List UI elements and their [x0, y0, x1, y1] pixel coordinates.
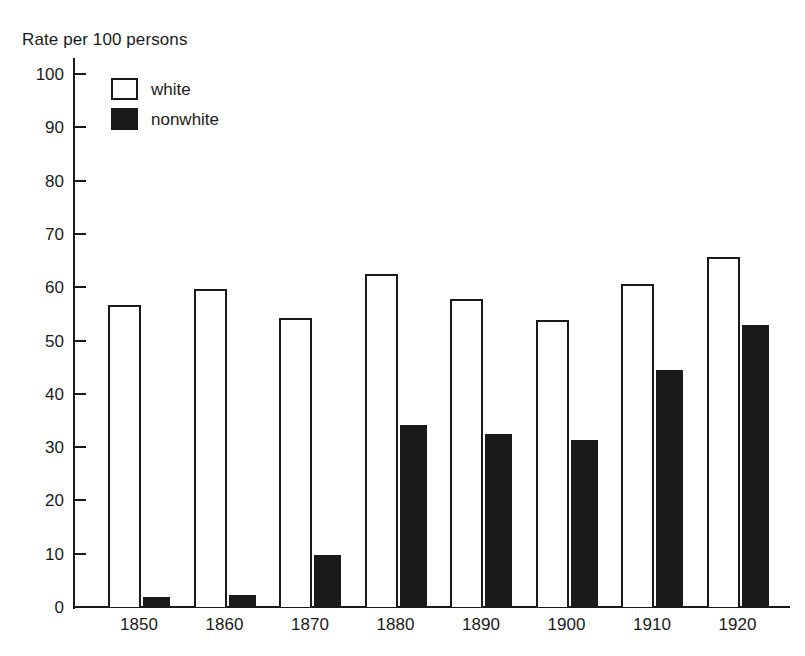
bar-white-1890	[450, 299, 483, 607]
bar-nonwhite-1890	[485, 434, 512, 607]
x-axis-tick-label-1860: 1860	[206, 616, 244, 633]
bar-nonwhite-1910	[656, 370, 683, 607]
bar-white-1870	[279, 318, 312, 607]
bar-nonwhite-1920	[742, 325, 769, 607]
x-axis-tick-label-1910: 1910	[633, 616, 671, 633]
bar-white-1860	[194, 289, 227, 607]
x-axis-tick-label-1870: 1870	[291, 616, 329, 633]
bar-white-1920	[707, 257, 740, 607]
bar-chart: Rate per 100 persons 0102030405060708090…	[0, 0, 805, 656]
bar-white-1900	[536, 320, 569, 607]
x-axis-tick-label-1920: 1920	[719, 616, 757, 633]
bar-nonwhite-1850	[143, 597, 170, 607]
bar-white-1850	[108, 305, 141, 607]
x-axis-tick-label-1880: 1880	[377, 616, 415, 633]
x-axis-tick-label-1850: 1850	[120, 616, 158, 633]
x-axis-tick-label-1890: 1890	[462, 616, 500, 633]
bar-white-1910	[621, 284, 654, 607]
bar-nonwhite-1900	[571, 440, 598, 607]
bar-nonwhite-1860	[229, 595, 256, 607]
bar-white-1880	[365, 274, 398, 607]
bars-layer	[0, 0, 805, 656]
x-axis-tick-label-1900: 1900	[548, 616, 586, 633]
bar-nonwhite-1880	[400, 425, 427, 607]
bar-nonwhite-1870	[314, 555, 341, 607]
